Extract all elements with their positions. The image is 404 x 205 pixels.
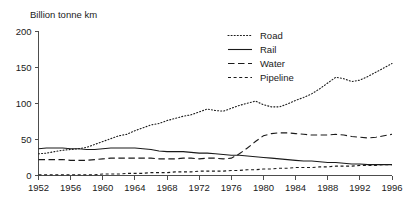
x-tick-label: 1984 xyxy=(285,182,306,193)
series-line-pipeline xyxy=(39,165,393,175)
series-lines xyxy=(39,64,393,175)
x-tick-label: 1976 xyxy=(221,182,242,193)
legend-label-road: Road xyxy=(260,30,283,41)
y-tick-label: 50 xyxy=(21,134,32,145)
x-tick-label: 1952 xyxy=(28,182,49,193)
y-tick-label: 150 xyxy=(16,62,32,73)
series-line-road xyxy=(39,64,393,154)
x-tick-label: 1996 xyxy=(381,182,402,193)
y-axis: 050100150200 xyxy=(16,26,39,182)
y-tick-label: 100 xyxy=(16,98,32,109)
line-chart: 050100150200 195219561960196419681972197… xyxy=(0,0,404,205)
x-tick-label: 1992 xyxy=(349,182,370,193)
series-line-water xyxy=(39,133,393,160)
chart-container: Billion tonne km 050100150200 1952195619… xyxy=(0,0,404,205)
y-tick-label: 200 xyxy=(16,26,32,37)
x-tick-label: 1956 xyxy=(60,182,81,193)
series-line-rail xyxy=(39,148,393,165)
legend-label-pipeline: Pipeline xyxy=(260,72,294,83)
legend-label-rail: Rail xyxy=(260,44,276,55)
x-tick-label: 1980 xyxy=(253,182,274,193)
x-tick-label: 1988 xyxy=(317,182,338,193)
chart-legend: Road Rail Water Pipeline xyxy=(228,30,294,83)
x-tick-label: 1964 xyxy=(124,182,145,193)
x-axis: 1952195619601964196819721976198019841988… xyxy=(28,176,403,193)
legend-label-water: Water xyxy=(260,58,285,69)
x-tick-label: 1968 xyxy=(156,182,177,193)
x-tick-label: 1972 xyxy=(189,182,210,193)
x-tick-label: 1960 xyxy=(92,182,113,193)
y-tick-label: 0 xyxy=(26,170,31,181)
